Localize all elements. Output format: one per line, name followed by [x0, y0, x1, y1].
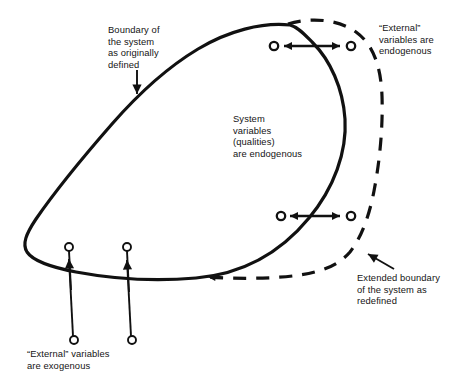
- label-extended-boundary: Extended boundary of the system as redef…: [357, 272, 440, 307]
- label-system-variables: System variables (qualities) are endogen…: [233, 113, 302, 159]
- exogenous-arrow-right: [123, 243, 136, 344]
- label-external-exogenous: “External” variables are exogenous: [27, 348, 110, 371]
- endogenous-arrow-bottom: [277, 212, 355, 220]
- diagram-canvas: Boundary of the system as originally def…: [0, 0, 475, 390]
- exogenous-arrow-left: [65, 243, 78, 344]
- label-external-endogenous: “External” variables are endogenous: [379, 22, 434, 57]
- diagram-graphics: [0, 0, 475, 390]
- label-boundary-original: Boundary of the system as originally def…: [108, 24, 160, 70]
- pointer-extended-boundary: [368, 254, 394, 269]
